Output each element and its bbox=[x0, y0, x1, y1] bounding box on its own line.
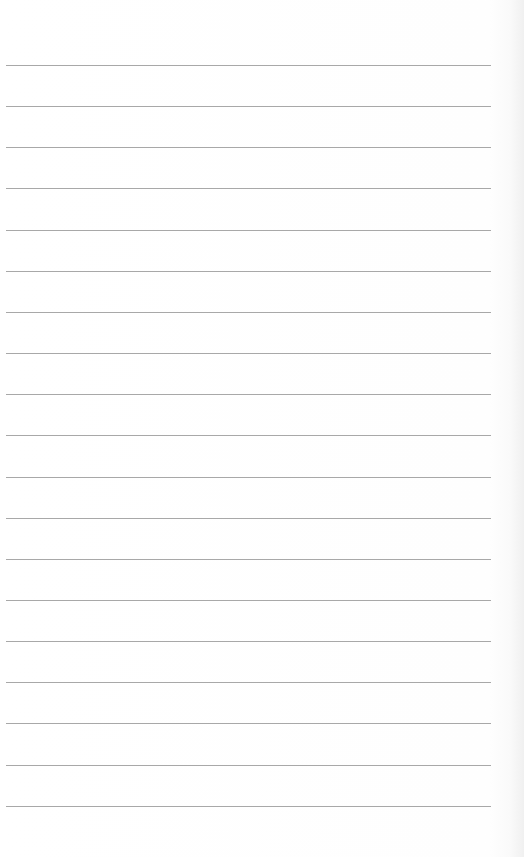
ruled-line bbox=[6, 106, 491, 107]
ruled-line bbox=[6, 230, 491, 231]
ruled-line bbox=[6, 600, 491, 601]
ruled-line bbox=[6, 271, 491, 272]
ruled-line bbox=[6, 682, 491, 683]
ruled-line bbox=[6, 65, 491, 66]
ruled-line bbox=[6, 394, 491, 395]
ruled-line bbox=[6, 435, 491, 436]
ruled-line bbox=[6, 559, 491, 560]
ruled-line bbox=[6, 806, 491, 807]
ruled-line bbox=[6, 477, 491, 478]
ruled-line bbox=[6, 518, 491, 519]
ruled-line bbox=[6, 312, 491, 313]
ruled-line bbox=[6, 188, 491, 189]
ruled-line bbox=[6, 147, 491, 148]
ruled-line bbox=[6, 765, 491, 766]
lined-paper-page bbox=[0, 0, 524, 857]
ruled-line bbox=[6, 641, 491, 642]
ruled-line bbox=[6, 723, 491, 724]
ruled-line bbox=[6, 353, 491, 354]
